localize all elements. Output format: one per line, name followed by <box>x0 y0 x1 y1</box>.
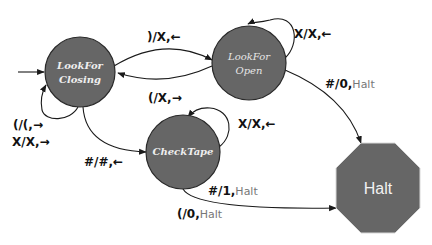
state-lookfor-open-line2: Open <box>236 65 263 76</box>
label-closing-to-open: )/X,← <box>147 30 181 44</box>
label-checktape-self-loop: X/X,← <box>238 117 276 131</box>
label-closing-self-loop-line1: (/(,→ <box>13 118 43 132</box>
edge-open-to-closing <box>118 66 212 79</box>
state-diagram: LookFor Closing LookFor Open CheckTape H… <box>0 0 432 245</box>
state-lookfor-open-line1: LookFor <box>227 51 271 62</box>
state-lookfor-open: LookFor Open <box>212 26 286 100</box>
state-checktape: CheckTape <box>146 115 220 189</box>
state-lookfor-closing-line2: Closing <box>59 74 101 85</box>
state-lookfor-closing: LookFor Closing <box>45 37 115 107</box>
label-open-to-closing: (/X,→ <box>148 91 182 105</box>
state-halt: Halt <box>336 143 420 233</box>
label-closing-to-checktape: #/#,← <box>84 155 123 169</box>
label-checktape-to-halt-1: #/1,Halt <box>208 184 258 198</box>
label-closing-self-loop-line2: X/X,→ <box>12 135 50 149</box>
label-checktape-to-halt-0: (/0,Halt <box>177 207 223 221</box>
label-open-self-loop: X/X,← <box>294 27 332 41</box>
state-checktape-label: CheckTape <box>153 146 214 157</box>
edge-closing-to-checktape <box>83 107 146 152</box>
edge-closing-to-open <box>114 49 212 66</box>
state-lookfor-closing-line1: LookFor <box>56 60 104 71</box>
label-open-to-halt: #/0,Halt <box>325 77 375 91</box>
edge-checktape-to-halt <box>183 189 336 208</box>
halt-label: Halt <box>364 180 393 197</box>
